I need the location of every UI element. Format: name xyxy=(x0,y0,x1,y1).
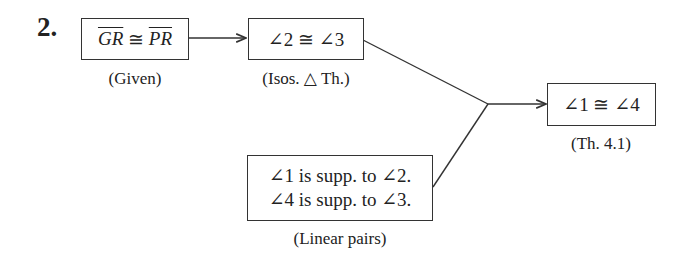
segment-gr: GR xyxy=(98,28,123,50)
linear-line-2: ∠4 is supp. to ∠3. xyxy=(269,188,412,212)
linear-pairs-reason: (Linear pairs) xyxy=(270,229,410,249)
conclusion-reason: (Th. 4.1) xyxy=(556,134,646,154)
line-angles-to-junction xyxy=(363,40,488,104)
given-statement-box: GR ≅ PR xyxy=(81,18,189,60)
congruent-symbol: ≅ xyxy=(123,28,149,51)
linear-pairs-box: ∠1 is supp. to ∠2. ∠4 is supp. to ∠3. xyxy=(247,155,433,221)
segment-pr: PR xyxy=(149,28,172,50)
angles-2-3-statement: ∠2 ≅ ∠3 xyxy=(268,28,344,51)
line-linear-to-junction xyxy=(433,104,488,187)
angles-2-3-reason: (Isos. △ Th.) xyxy=(246,68,366,89)
angles-2-3-box: ∠2 ≅ ∠3 xyxy=(248,18,364,60)
linear-line-1: ∠1 is supp. to ∠2. xyxy=(269,164,412,188)
conclusion-statement: ∠1 ≅ ∠4 xyxy=(563,93,639,116)
given-reason: (Given) xyxy=(97,69,173,89)
conclusion-box: ∠1 ≅ ∠4 xyxy=(547,83,656,126)
